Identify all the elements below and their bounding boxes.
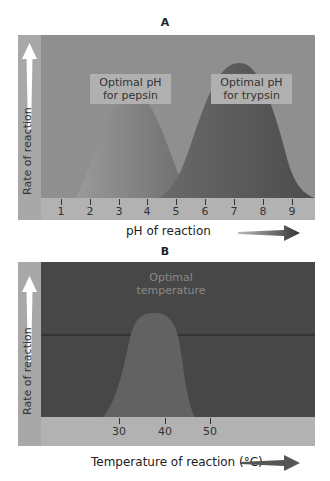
chart-b-y-strip: Rate of reaction (18, 262, 41, 417)
annotation-trypsin: Optimal pH for trypsin (211, 74, 292, 104)
tick-label: 2 (87, 205, 94, 218)
chart-b-x-axis: 30 40 50 (41, 417, 315, 446)
tick-label: 50 (203, 425, 217, 438)
tick-label: 40 (158, 425, 172, 438)
annotation-optimal-temperature: Optimal temperature (131, 271, 211, 297)
tick-label: 4 (144, 205, 151, 218)
tick-label: 8 (260, 205, 267, 218)
chart-b-plot: Optimal temperature (41, 262, 315, 417)
tick-label: 9 (289, 205, 296, 218)
tick (165, 418, 166, 424)
right-arrow-icon (240, 455, 300, 471)
annotation-pepsin: Optimal pH for pepsin (90, 74, 171, 104)
chart-b-ylabel: Rate of reaction (21, 327, 34, 415)
tick (210, 418, 211, 424)
tick-label: 6 (202, 205, 209, 218)
chart-a-title: A (0, 16, 330, 29)
chart-a-curves (41, 35, 315, 198)
chart-b-xlabel: Temperature of reaction (°C) (91, 455, 263, 469)
tick-label: 5 (173, 205, 180, 218)
chart-a-x-axis: 1 2 3 4 5 6 7 8 9 (41, 198, 315, 220)
tick-label: 1 (58, 205, 65, 218)
chart-a-xlabel: pH of reaction (126, 224, 211, 238)
tick (119, 418, 120, 424)
tick-label: 7 (231, 205, 238, 218)
tick-label: 3 (116, 205, 123, 218)
right-arrow-icon (238, 225, 300, 241)
chart-b-title: B (0, 245, 330, 258)
chart-a-y-strip: Rate of reaction (18, 35, 41, 198)
chart-b-panel: Rate of reaction Optimal temperature 30 … (18, 262, 315, 446)
tick-label: 30 (112, 425, 126, 438)
chart-a-plot: Optimal pH for pepsin Optimal pH for try… (41, 35, 315, 198)
chart-a-ylabel: Rate of reaction (21, 107, 34, 195)
chart-a-panel: Rate of reaction Optimal pH for pepsin O… (18, 35, 315, 220)
